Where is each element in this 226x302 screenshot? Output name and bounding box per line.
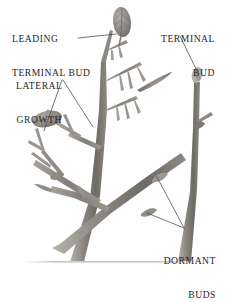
dormant-bud-lower <box>141 208 157 216</box>
leader-dormant-lower <box>147 213 184 228</box>
label-dormant-buds-line2: BUDS <box>164 289 216 300</box>
label-dormant-buds-line1: DORMANT <box>164 255 216 266</box>
mid-right-twig-b2 <box>133 98 141 114</box>
mid-right-twig-b3 <box>116 106 120 121</box>
label-leading-terminal-bud-line1: LEADING <box>12 33 90 44</box>
mid-right-twig-main <box>104 96 138 112</box>
label-lateral-growth: LATERAL GROWTH <box>16 57 62 148</box>
upper-right-twig-b3 <box>119 74 124 91</box>
label-terminal-bud-line1: TERMINAL <box>161 33 215 44</box>
upper-right-twig-b2 <box>136 65 146 82</box>
upper-right-twig-b1 <box>127 70 133 89</box>
top-twig-fan-b2 <box>111 49 114 60</box>
label-lateral-growth-line2: GROWTH <box>16 114 62 125</box>
top-twig-fan-b1 <box>118 45 123 58</box>
label-terminal-bud-line2: BUD <box>161 67 215 78</box>
mid-right-twig-b1 <box>124 102 130 119</box>
leader-dormant-upper <box>157 177 184 228</box>
dormant-branch-side-tip <box>34 184 52 192</box>
upper-right-twig-main <box>105 62 142 82</box>
label-dormant-buds: DORMANT BUDS <box>164 232 216 302</box>
label-terminal-bud: TERMINAL BUD <box>161 10 215 101</box>
label-lateral-growth-line1: LATERAL <box>16 80 62 91</box>
lower-left-limb <box>33 160 101 205</box>
